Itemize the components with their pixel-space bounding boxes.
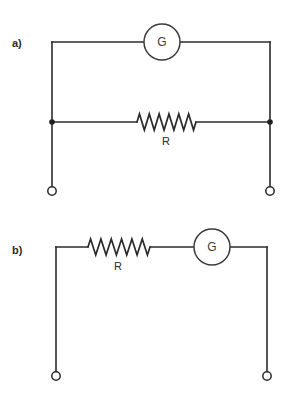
circuit-canvas: GRa) RGb) bbox=[0, 0, 291, 395]
resistor-label: R bbox=[114, 260, 122, 272]
panel-label: b) bbox=[12, 244, 23, 256]
junction-dot bbox=[49, 119, 55, 125]
resistor-label: R bbox=[162, 135, 170, 147]
circuit-diagram-figure: GRa) RGb) bbox=[0, 0, 291, 395]
junction-dot bbox=[267, 119, 273, 125]
panel-a: GRa) bbox=[12, 24, 274, 195]
terminal-post[interactable] bbox=[263, 372, 271, 380]
resistor-symbol[interactable] bbox=[137, 114, 196, 130]
panel-b: RGb) bbox=[12, 229, 271, 380]
resistor-symbol[interactable] bbox=[88, 239, 150, 255]
galvanometer-label: G bbox=[207, 240, 216, 254]
galvanometer-label: G bbox=[157, 35, 166, 49]
terminal-post[interactable] bbox=[52, 372, 60, 380]
terminal-post[interactable] bbox=[266, 187, 274, 195]
panel-label: a) bbox=[12, 37, 22, 49]
terminal-post[interactable] bbox=[48, 187, 56, 195]
